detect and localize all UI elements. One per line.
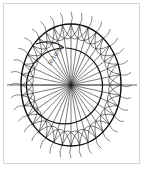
inner-offset-circle	[27, 48, 103, 124]
ellipse-radial-diagram: 10/10/50	[0, 0, 151, 171]
